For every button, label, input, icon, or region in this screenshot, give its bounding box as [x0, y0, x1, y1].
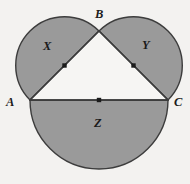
region-label-z: Z — [94, 117, 102, 130]
midpoint-ab-dot — [62, 63, 66, 67]
vertex-label-c: C — [174, 96, 182, 109]
vertex-label-a: A — [6, 96, 14, 109]
semicircle-z-shape — [30, 100, 168, 169]
midpoint-ac-dot — [97, 98, 101, 102]
region-label-y: Y — [142, 39, 150, 52]
geometry-figure: A B C X Y Z — [0, 0, 190, 184]
figure-canvas — [0, 0, 190, 184]
midpoint-bc-dot — [131, 63, 135, 67]
vertex-label-b: B — [95, 8, 103, 21]
region-label-x: X — [43, 40, 51, 53]
